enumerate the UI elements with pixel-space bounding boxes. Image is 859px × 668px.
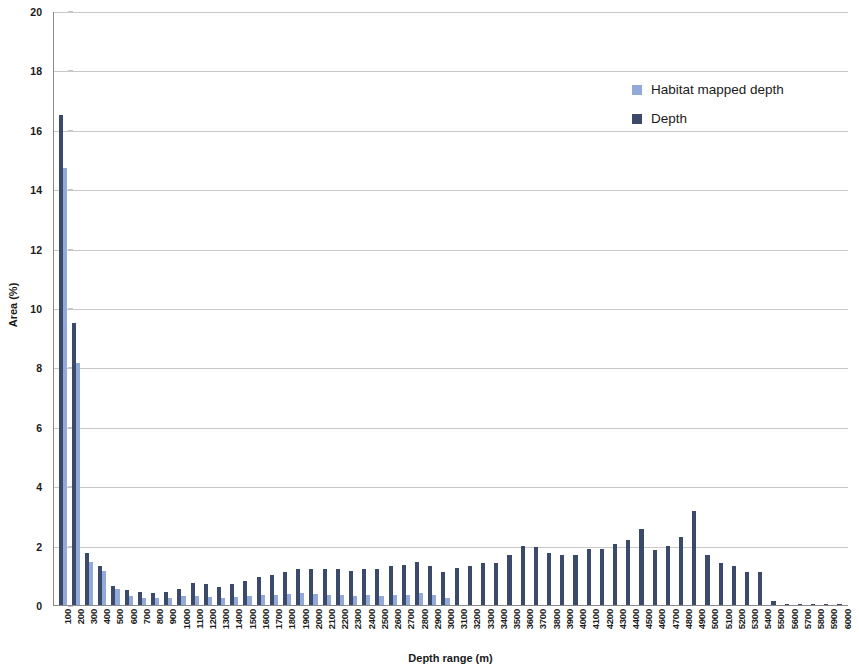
x-axis-tick-cell: 4000 — [571, 608, 584, 652]
bar-depth — [771, 601, 775, 605]
bar-depth — [719, 563, 723, 605]
x-axis-tick-cell: 3800 — [544, 608, 557, 652]
y-axis-tick-label: 20 — [30, 6, 42, 18]
y-axis-tick-label: 0 — [36, 600, 42, 612]
bar-depth — [705, 555, 709, 605]
bar-group — [399, 12, 412, 605]
bar-habitat-mapped-depth — [445, 598, 449, 605]
bar-group — [346, 12, 359, 605]
bar-habitat-mapped-depth — [274, 595, 278, 605]
bar-group — [479, 12, 492, 605]
bar-group — [307, 12, 320, 605]
bar-depth — [666, 546, 670, 605]
bar-habitat-mapped-depth — [419, 593, 423, 605]
bar-group — [214, 12, 227, 605]
bar-group — [201, 12, 214, 605]
y-axis-tick-label: 12 — [30, 244, 42, 256]
bar-habitat-mapped-depth — [261, 595, 265, 605]
y-axis-tick-labels: 02468101214161820 — [20, 12, 46, 606]
bar-habitat-mapped-depth — [221, 598, 225, 605]
bar-habitat-mapped-depth — [327, 595, 331, 605]
bar-group — [333, 12, 346, 605]
x-axis-tick-cell: 5200 — [729, 608, 742, 652]
x-axis-tick-cell: 6000 — [835, 608, 848, 652]
x-axis-tick-cell: 500 — [108, 608, 121, 652]
bar-depth — [613, 544, 617, 605]
y-axis-tick-label: 16 — [30, 125, 42, 137]
y-axis-tick-label: 4 — [36, 481, 42, 493]
bar-group — [439, 12, 452, 605]
bar-group — [545, 12, 558, 605]
bar-group — [809, 12, 822, 605]
x-axis-tick-cell: 4600 — [650, 608, 663, 652]
bar-habitat-mapped-depth — [366, 595, 370, 605]
bar-depth — [692, 511, 696, 605]
bar-habitat-mapped-depth — [340, 595, 344, 605]
x-axis-tick-cell: 4200 — [597, 608, 610, 652]
bar-depth — [547, 553, 551, 605]
x-axis-tick-cell: 4300 — [610, 608, 623, 652]
bar-depth — [494, 563, 498, 605]
x-axis-tick-cell: 1100 — [187, 608, 200, 652]
bar-group — [412, 12, 425, 605]
bar-group — [584, 12, 597, 605]
bar-habitat-mapped-depth — [76, 363, 80, 605]
y-axis-tick-label: 14 — [30, 184, 42, 196]
bar-group — [795, 12, 808, 605]
bar-group — [571, 12, 584, 605]
legend-label: Habitat mapped depth — [651, 82, 784, 97]
bar-habitat-mapped-depth — [287, 594, 291, 605]
chart-legend: Habitat mapped depthDepth — [632, 82, 784, 126]
x-axis-tick-cell: 3900 — [557, 608, 570, 652]
x-axis-tick-cell: 2900 — [425, 608, 438, 652]
bar-group — [241, 12, 254, 605]
bar-habitat-mapped-depth — [168, 598, 172, 605]
bar-depth — [758, 572, 762, 605]
y-axis-title-label: Area (%) — [7, 283, 19, 328]
bar-group — [162, 12, 175, 605]
bar-group — [267, 12, 280, 605]
x-axis-tick-cell: 4700 — [663, 608, 676, 652]
bar-group — [386, 12, 399, 605]
x-axis-tick-cell: 3700 — [531, 608, 544, 652]
bar-depth — [837, 604, 841, 605]
x-axis-tick-cell: 300 — [81, 608, 94, 652]
bar-group — [82, 12, 95, 605]
bar-depth — [732, 566, 736, 605]
x-axis-tick-cell: 2700 — [399, 608, 412, 652]
bar-group — [505, 12, 518, 605]
bar-habitat-mapped-depth — [89, 562, 93, 605]
bar-depth — [521, 546, 525, 605]
x-axis-tick-cell: 1400 — [227, 608, 240, 652]
legend-swatch — [632, 114, 642, 124]
x-axis-tick-cell: 3000 — [438, 608, 451, 652]
x-axis-tick-cell: 900 — [161, 608, 174, 652]
x-axis-tick-cell: 4500 — [637, 608, 650, 652]
bar-depth — [455, 568, 459, 605]
bar-group — [822, 12, 835, 605]
bar-group — [465, 12, 478, 605]
bar-depth — [798, 604, 802, 605]
x-axis-tick-cell: 2500 — [372, 608, 385, 652]
x-axis-tick-cell: 2100 — [319, 608, 332, 652]
x-axis-tick-labels: 1002003004005006007008009001000110012001… — [53, 608, 848, 652]
x-axis-tick-cell: 2800 — [412, 608, 425, 652]
x-axis-tick-cell: 4400 — [623, 608, 636, 652]
x-axis-tick-cell: 5700 — [795, 608, 808, 652]
x-axis-tick-cell: 1500 — [240, 608, 253, 652]
bar-group — [531, 12, 544, 605]
bar-group — [558, 12, 571, 605]
bar-group — [122, 12, 135, 605]
bar-group — [452, 12, 465, 605]
bar-habitat-mapped-depth — [300, 593, 304, 605]
bar-habitat-mapped-depth — [195, 596, 199, 605]
bar-depth — [679, 537, 683, 605]
bar-group — [56, 12, 69, 605]
bar-group — [294, 12, 307, 605]
y-axis-tick-label: 8 — [36, 362, 42, 374]
bar-habitat-mapped-depth — [63, 168, 67, 605]
bar-habitat-mapped-depth — [129, 596, 133, 605]
bar-habitat-mapped-depth — [393, 595, 397, 605]
bar-habitat-mapped-depth — [102, 571, 106, 605]
bar-depth — [824, 604, 828, 605]
